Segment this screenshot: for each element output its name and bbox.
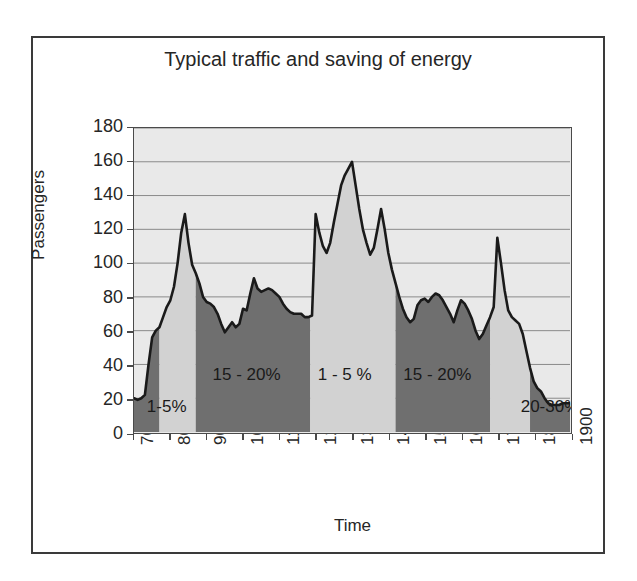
chart-title: Typical traffic and saving of energy	[31, 48, 605, 71]
x-tick-mark-1600	[462, 434, 464, 440]
x-tick-mark-1300	[352, 434, 354, 440]
y-tick-label-160: 160	[65, 151, 123, 169]
traffic-area-plot	[134, 128, 570, 432]
y-tick-label-0: 0	[65, 424, 123, 442]
x-tick-label-1900: 1900	[578, 407, 595, 445]
y-axis-title: Passengers	[29, 135, 49, 295]
y-tick-label-20: 20	[65, 390, 123, 408]
band-label-1-5: 1-5%	[147, 397, 187, 417]
x-tick-mark-1100	[279, 434, 281, 440]
x-tick-mark-1200	[315, 434, 317, 440]
y-tick-label-140: 140	[65, 185, 123, 203]
x-tick-mark-700	[133, 434, 135, 440]
y-tick-label-80: 80	[65, 288, 123, 306]
band-label-15-20: 15 - 20%	[213, 365, 281, 385]
x-tick-mark-1700	[498, 434, 500, 440]
band-label-1-5: 1 - 5 %	[318, 365, 372, 385]
y-tick-label-180: 180	[65, 117, 123, 135]
x-tick-mark-1800	[535, 434, 537, 440]
chart-figure: Typical traffic and saving of energy Pas…	[0, 0, 637, 581]
plot-area: 1-5%15 - 20%1 - 5 %15 - 20%20-30%	[133, 127, 572, 434]
band-fill-3	[310, 162, 395, 432]
y-tick-label-60: 60	[65, 322, 123, 340]
band-label-20-30: 20-30%	[521, 397, 572, 417]
x-tick-mark-1900	[572, 434, 574, 440]
x-axis-title: Time	[133, 516, 572, 536]
band-label-15-20: 15 - 20%	[403, 365, 471, 385]
x-tick-mark-1400	[389, 434, 391, 440]
x-tick-mark-800	[169, 434, 171, 440]
band-fill-4	[396, 283, 490, 432]
y-tick-label-40: 40	[65, 356, 123, 374]
y-tick-label-100: 100	[65, 253, 123, 271]
x-tick-mark-1000	[242, 434, 244, 440]
x-tick-mark-1500	[425, 434, 427, 440]
y-tick-label-120: 120	[65, 219, 123, 237]
x-tick-mark-900	[206, 434, 208, 440]
